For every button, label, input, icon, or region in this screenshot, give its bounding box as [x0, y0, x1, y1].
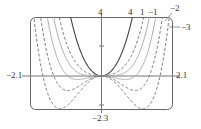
- curve-label-minus3: −3: [181, 23, 191, 32]
- x-min-label: −2.1: [6, 71, 22, 80]
- y-max-label: 4: [98, 8, 103, 17]
- x-max-label: 2.1: [176, 71, 187, 80]
- curve-label-minus1: −1: [148, 8, 158, 17]
- plot-area: [0, 0, 201, 129]
- curve-label-1: 1: [140, 8, 145, 17]
- curve-label-minus2: −2: [170, 4, 180, 13]
- curve-label-4: 4: [128, 8, 133, 17]
- y-min-label: −2.3: [92, 114, 108, 123]
